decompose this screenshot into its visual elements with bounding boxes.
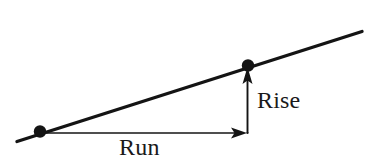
rise-label: Rise [257,88,300,112]
slope-diagram-figure: Rise Run [0,0,380,155]
upper-right-point-marker [242,59,254,71]
right-angle-corner [246,132,248,134]
slope-diagram-canvas [0,0,380,155]
run-label: Run [119,135,160,155]
slope-line [17,32,362,142]
lower-left-point-marker [34,125,46,137]
